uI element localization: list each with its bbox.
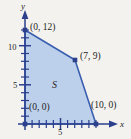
point-label-7-9: (7, 9) <box>80 52 101 62</box>
x-axis-label: x <box>120 120 124 129</box>
x-axis-arrow <box>109 121 118 128</box>
point-label-10-0: (10, 0) <box>91 101 116 111</box>
region-label-S: S <box>52 80 57 90</box>
y-tick-label-5: 5 <box>13 81 17 90</box>
y-axis-label: y <box>21 2 25 11</box>
point-label-0-0: (0, 0) <box>29 103 50 113</box>
point-label-0-12: (0, 12) <box>30 23 55 33</box>
vertex-marker-origin <box>23 122 28 127</box>
vertex-marker-10-0 <box>94 122 99 127</box>
x-tick-label-5: 5 <box>58 128 62 137</box>
vertex-marker-7-9 <box>73 58 78 63</box>
vertex-marker-0-12 <box>23 28 28 33</box>
y-tick-label-10: 10 <box>8 43 17 52</box>
plot-canvas <box>0 0 131 139</box>
y-axis-arrow <box>22 10 29 19</box>
coordinate-plane-figure: y x 10 5 5 (0, 12) (7, 9) (10, 0) (0, 0)… <box>0 0 131 139</box>
